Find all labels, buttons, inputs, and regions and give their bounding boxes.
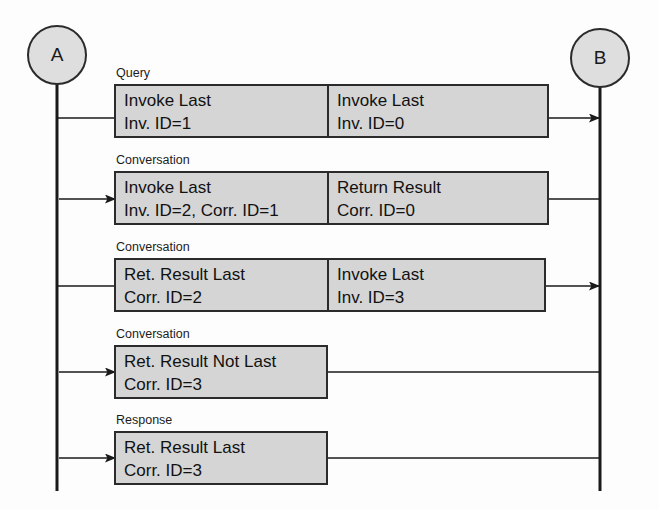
message-2-left-line2: Inv. ID=2, Corr. ID=1 xyxy=(124,201,279,220)
message-1-right-line2: Inv. ID=0 xyxy=(337,114,404,133)
message-box-2[interactable]: Invoke LastInv. ID=2, Corr. ID=1Return R… xyxy=(115,172,548,224)
actor-a[interactable]: A xyxy=(28,26,86,84)
diagram-canvas: QueryInvoke LastInv. ID=1Invoke LastInv.… xyxy=(0,0,659,510)
message-box-1[interactable]: Invoke LastInv. ID=1Invoke LastInv. ID=0 xyxy=(115,85,548,137)
message-1-left-line1: Invoke Last xyxy=(124,91,211,110)
message-4-left-line1: Ret. Result Not Last xyxy=(124,352,276,371)
sequence-diagram: QueryInvoke LastInv. ID=1Invoke LastInv.… xyxy=(0,0,659,510)
stage-label-5: Response xyxy=(116,413,172,427)
message-box-5[interactable]: Ret. Result LastCorr. ID=3 xyxy=(115,432,327,484)
message-3-right-line1: Invoke Last xyxy=(337,265,424,284)
message-3-left-line1: Ret. Result Last xyxy=(124,265,245,284)
message-1-right-line1: Invoke Last xyxy=(337,91,424,110)
actor-label-b: B xyxy=(594,47,607,68)
message-boxes-layer: QueryInvoke LastInv. ID=1Invoke LastInv.… xyxy=(115,66,548,484)
message-2-right-line1: Return Result xyxy=(337,178,441,197)
stage-label-3: Conversation xyxy=(116,240,190,254)
message-5-left-line2: Corr. ID=3 xyxy=(124,461,202,480)
message-3-left-line2: Corr. ID=2 xyxy=(124,288,202,307)
actor-label-a: A xyxy=(51,44,64,65)
message-1-left-line2: Inv. ID=1 xyxy=(124,114,191,133)
message-5-left-line1: Ret. Result Last xyxy=(124,438,245,457)
stage-label-1: Query xyxy=(116,66,151,80)
message-2-right-line2: Corr. ID=0 xyxy=(337,201,415,220)
message-2-left-line1: Invoke Last xyxy=(124,178,211,197)
message-box-4[interactable]: Ret. Result Not LastCorr. ID=3 xyxy=(115,346,327,398)
message-box-3[interactable]: Ret. Result LastCorr. ID=2Invoke LastInv… xyxy=(115,259,545,311)
stage-label-2: Conversation xyxy=(116,153,190,167)
actor-b[interactable]: B xyxy=(571,29,629,87)
message-3-right-line2: Inv. ID=3 xyxy=(337,288,404,307)
message-4-left-line2: Corr. ID=3 xyxy=(124,375,202,394)
stage-label-4: Conversation xyxy=(116,327,190,341)
